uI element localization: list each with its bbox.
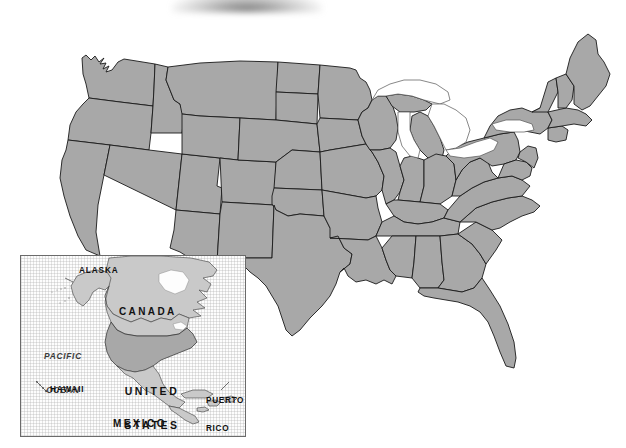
state-florida	[418, 278, 516, 368]
state-north-dakota	[276, 62, 320, 94]
inset-caribbean-islands	[181, 390, 237, 412]
map-canvas: ALASKA CANADA PACIFIC OCEAN UNITED STATE…	[0, 0, 626, 448]
state-south-dakota	[276, 92, 318, 124]
inset-mexico-shape	[117, 366, 185, 408]
inset-alaska-shape	[71, 270, 111, 306]
state-massachusetts	[548, 108, 592, 128]
state-arkansas	[322, 190, 382, 240]
alaska-pointer	[65, 278, 73, 282]
state-ohio	[420, 154, 456, 204]
state-alabama	[412, 236, 444, 288]
state-connecticut	[548, 126, 568, 142]
north-america-inset-panel: ALASKA CANADA PACIFIC OCEAN UNITED STATE…	[20, 255, 246, 437]
inset-central-america-shape	[169, 406, 199, 424]
inset-aleutian-islands	[51, 287, 69, 303]
hawaii-leader-line	[36, 381, 47, 392]
puerto-rico-leader-line	[221, 382, 229, 390]
state-vermont	[532, 78, 558, 112]
state-utah	[176, 154, 222, 214]
state-montana	[166, 61, 278, 120]
state-wyoming	[182, 114, 240, 160]
state-nevada	[104, 145, 182, 210]
state-california	[60, 140, 110, 256]
inset-map-graphic	[21, 256, 246, 437]
state-colorado	[220, 158, 276, 205]
inset-canada-shape	[105, 256, 217, 322]
